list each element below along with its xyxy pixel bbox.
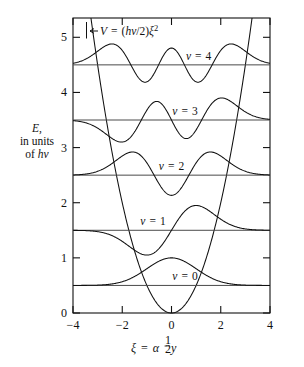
- y-tick-label: 5: [61, 30, 67, 44]
- xlabel-alpha: α: [153, 341, 160, 355]
- potential-label: V=(hν/2)ξ2: [100, 23, 158, 38]
- wavefunction-curve: [73, 152, 270, 195]
- plot-area: 012345 −4−2024 v=0v=1v=2v=3v=4 V=(hν/2)ξ…: [0, 0, 304, 367]
- energy-level-label: v=1: [140, 215, 166, 227]
- energy-level-label: v=0: [172, 270, 198, 282]
- x-tick-label: 4: [267, 318, 273, 332]
- energy-level-label: v=2: [159, 160, 185, 172]
- level-v-symbol: v: [172, 270, 178, 282]
- x-axis-label-text: ξ=α: [131, 341, 160, 355]
- y-tick-label: 2: [61, 196, 67, 210]
- level-v-symbol: v: [186, 50, 192, 62]
- xlabel-xi: ξ: [131, 341, 137, 355]
- level-quantum-number: 3: [192, 105, 198, 117]
- level-quantum-number: 2: [178, 160, 184, 172]
- y-tick-label: 1: [61, 251, 67, 265]
- harmonic-oscillator-figure: E, in units of hν 012345 −4−2024 v=0v=1v…: [0, 0, 304, 367]
- level-v-symbol: v: [159, 160, 165, 172]
- x-axis-label: ξ=α 1 2 y: [131, 333, 177, 356]
- wavefunction-curve: [73, 44, 270, 82]
- y-tick-label: 4: [61, 85, 67, 99]
- y-tick-label: 3: [61, 141, 67, 155]
- level-quantum-number: 4: [206, 50, 212, 62]
- energy-level-label: v=3: [172, 105, 198, 117]
- level-v-symbol: v: [140, 215, 146, 227]
- x-tick-label: 0: [169, 318, 175, 332]
- x-tick-label: −4: [67, 318, 80, 332]
- level-quantum-number: 1: [160, 215, 166, 227]
- potential-v-symbol: V: [100, 25, 109, 37]
- level-v-symbol: v: [172, 105, 178, 117]
- potential-annotation: V=(hν/2)ξ2: [87, 22, 159, 39]
- energy-level-labels: v=0v=1v=2v=3v=4: [140, 50, 211, 283]
- xlabel-y: y: [170, 341, 177, 355]
- x-tick-label: −2: [116, 318, 129, 332]
- level-quantum-number: 0: [192, 270, 198, 282]
- x-tick-label: 2: [218, 318, 224, 332]
- energy-level-label: v=4: [186, 50, 212, 62]
- potential-exponent: 2: [154, 23, 158, 33]
